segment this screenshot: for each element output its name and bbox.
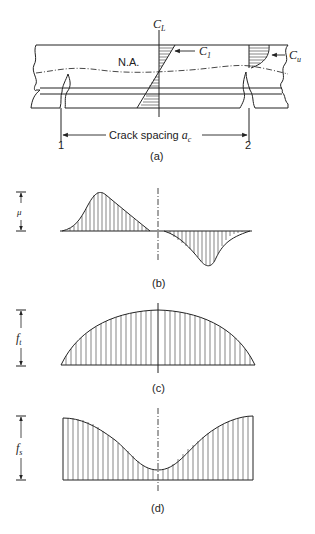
crack-2-label: 2 [245,139,251,151]
stress-profile-cu [251,45,269,68]
panel-a-label: (a) [150,150,163,162]
left-break-and-crack-1 [31,45,70,108]
crack-1-label: 1 [58,139,64,151]
panel-d-label: (d) [151,502,164,514]
bond-stress-negative-curve [164,231,250,266]
panel-a-beam-section: N.A. CL C1 Cu [31,17,301,162]
centerline-label: CL [153,17,166,33]
neutral-axis-label: N.A. [118,56,139,68]
panel-c-label: (c) [152,382,165,394]
mu-label: μ [16,207,22,217]
panel-d-steel-stress: fs (d) [16,408,253,514]
right-break-and-crack-2 [240,45,288,108]
panel-b-label: (b) [152,277,165,289]
bond-stress-hatch [70,192,242,266]
cu-label: Cu [289,48,301,64]
stress-hatch-crack-2 [249,48,269,66]
crack-spacing-label: Crack spacing ac [109,128,192,144]
c1-label: C1 [199,44,211,60]
fs-label: fs [16,441,22,457]
ft-label: ft [16,331,22,347]
panel-b-bond-stress: μ (b) [16,188,252,289]
stress-profile-c1 [137,45,175,108]
crack-spacing-diagram: N.A. CL C1 Cu [0,0,315,534]
panel-c-concrete-tensile-stress: ft (c) [16,303,255,394]
